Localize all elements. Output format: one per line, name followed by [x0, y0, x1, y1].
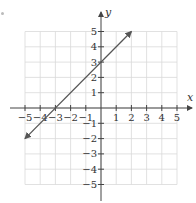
x-tick-label: 2 — [128, 112, 134, 123]
y-tick-label: −3 — [82, 148, 97, 159]
y-tick-label: −4 — [82, 164, 97, 175]
x-tick-label: −2 — [63, 112, 78, 123]
axes — [10, 12, 192, 201]
x-tick-label: 5 — [174, 112, 180, 123]
y-tick-label: −5 — [82, 179, 97, 190]
x-tick-label: −5 — [18, 112, 33, 123]
y-tick-label: −1 — [82, 118, 97, 129]
coordinate-plane: −5−4−3−2−112345−5−4−3−2−112345 x y — [0, 0, 196, 203]
y-tick-label: 2 — [91, 72, 97, 83]
x-tick-label: 4 — [159, 112, 165, 123]
x-tick-label: 1 — [113, 112, 119, 123]
x-tick-label: 3 — [143, 112, 149, 123]
x-axis-label: x — [187, 91, 194, 104]
y-tick-label: 1 — [91, 87, 97, 98]
y-tick-label: 5 — [91, 26, 97, 37]
y-tick-label: 4 — [91, 41, 97, 52]
y-tick-label: 3 — [91, 57, 97, 68]
y-axis-label: y — [104, 6, 112, 19]
y-tick-label: −2 — [82, 133, 97, 144]
